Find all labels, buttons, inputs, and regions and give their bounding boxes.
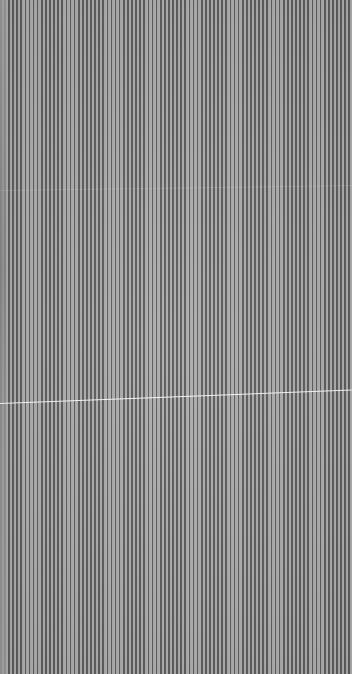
- bright-scratch-line: [0, 389, 352, 404]
- vignette-overlay: [0, 0, 352, 674]
- left-edge-shading: [0, 0, 6, 674]
- striped-pattern-image: [0, 0, 352, 674]
- faint-scratch-line: [0, 185, 352, 191]
